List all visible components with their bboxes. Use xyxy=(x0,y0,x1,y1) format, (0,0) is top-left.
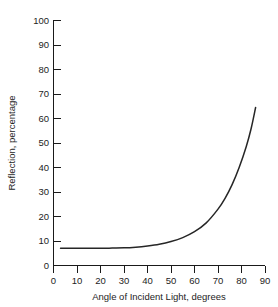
y-tick-label: 80 xyxy=(38,64,49,75)
y-tick-label: 60 xyxy=(38,113,49,124)
x-axis-title: Angle of Incident Light, degrees xyxy=(92,291,226,302)
y-tick-label: 50 xyxy=(38,137,49,148)
y-tick-label: 40 xyxy=(38,162,49,173)
x-tick-label: 0 xyxy=(51,275,56,286)
y-tick-label: 100 xyxy=(33,15,49,26)
y-tick-label: 70 xyxy=(38,88,49,99)
y-tick-label: 10 xyxy=(38,235,49,246)
y-tick-label: 20 xyxy=(38,211,49,222)
x-tick-label: 90 xyxy=(260,275,271,286)
y-axis-title: Reflection, percentage xyxy=(6,95,17,190)
y-tick-label: 90 xyxy=(38,39,49,50)
x-tick-label: 30 xyxy=(119,275,130,286)
x-tick-label: 20 xyxy=(95,275,106,286)
y-tick-label: 30 xyxy=(38,186,49,197)
x-tick-label: 10 xyxy=(72,275,83,286)
reflection-vs-angle-chart: 100 90 80 70 60 50 40 30 20 10 0 0 10 20… xyxy=(0,0,278,307)
x-tick-label: 50 xyxy=(166,275,177,286)
y-tick-label: 0 xyxy=(44,260,49,271)
chart-figure: 100 90 80 70 60 50 40 30 20 10 0 0 10 20… xyxy=(0,0,278,307)
x-tick-label: 60 xyxy=(189,275,200,286)
x-tick-label: 70 xyxy=(213,275,224,286)
x-tick-label: 40 xyxy=(142,275,153,286)
x-tick-label: 80 xyxy=(236,275,247,286)
